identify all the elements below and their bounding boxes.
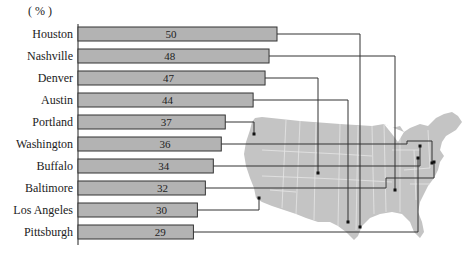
- bar-value-label: 36: [160, 138, 172, 150]
- bar: [78, 115, 225, 129]
- category-label: Washington: [16, 137, 73, 151]
- category-labels: HoustonNashvilleDenverAustinPortlandWash…: [13, 27, 73, 239]
- leader-line: [197, 198, 259, 210]
- city-marker: [347, 221, 350, 224]
- category-label: Los Angeles: [13, 203, 73, 217]
- bar-value-label: 37: [161, 116, 173, 128]
- category-label: Nashville: [27, 49, 73, 63]
- city-marker: [317, 172, 320, 175]
- bar-value-label: 47: [163, 72, 175, 84]
- bar: [78, 225, 193, 239]
- category-label: Baltimore: [25, 181, 73, 195]
- bar: [78, 181, 205, 195]
- bar-value-label: 29: [155, 226, 167, 238]
- bar-value-label: 30: [156, 204, 168, 216]
- bar-value-label: 48: [164, 50, 176, 62]
- city-marker: [258, 197, 261, 200]
- bar-value-label: 50: [166, 28, 178, 40]
- category-label: Houston: [32, 27, 73, 41]
- city-marker: [419, 145, 422, 148]
- city-marker: [433, 161, 436, 164]
- bar: [78, 203, 197, 217]
- bar-value-label: 44: [162, 94, 174, 106]
- us-map-silhouette: [244, 112, 462, 240]
- bar: [78, 137, 221, 151]
- bar-value-label: 32: [157, 182, 168, 194]
- bars: 50484744373634323029: [78, 27, 277, 239]
- chart-canvas: HoustonNashvilleDenverAustinPortlandWash…: [0, 0, 476, 261]
- city-marker: [417, 157, 420, 160]
- bar-map-chart: ( % ) HoustonNashvilleDenverAustinPortla…: [0, 0, 476, 261]
- bar-value-label: 34: [158, 160, 170, 172]
- bar: [78, 27, 277, 41]
- category-label: Pittsburgh: [24, 225, 73, 239]
- category-label: Austin: [41, 93, 73, 107]
- city-marker: [394, 189, 397, 192]
- category-label: Denver: [38, 71, 73, 85]
- city-marker: [359, 226, 362, 229]
- category-label: Buffalo: [37, 159, 73, 173]
- bar: [78, 159, 213, 173]
- us-map: [244, 112, 462, 240]
- category-label: Portland: [32, 115, 73, 129]
- city-marker: [253, 133, 256, 136]
